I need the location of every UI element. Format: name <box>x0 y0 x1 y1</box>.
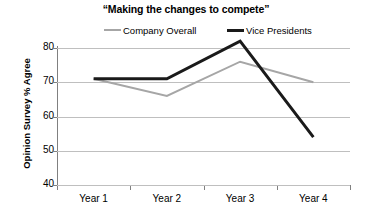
chart-title: “Making the changes to compete” <box>0 3 372 15</box>
x-tick-label: Year 2 <box>130 193 204 204</box>
y-tick-label: 50 <box>30 144 54 155</box>
y-tick-label: 80 <box>30 41 54 52</box>
y-tick-label: 40 <box>30 178 54 189</box>
gridline <box>57 185 350 186</box>
y-tick-label: 70 <box>30 75 54 86</box>
x-tick-label: Year 4 <box>276 193 350 204</box>
x-tick-mark <box>350 185 351 190</box>
legend-item-company-overall: Company Overall <box>104 23 196 37</box>
legend-item-vice-presidents: Vice Presidents <box>227 23 312 37</box>
line-chart: “Making the changes to compete” Company … <box>0 0 372 217</box>
legend-swatch-vice-presidents-icon <box>227 29 244 32</box>
legend-swatch-company-overall-icon <box>104 29 121 31</box>
legend-label-company-overall: Company Overall <box>123 25 196 36</box>
legend-label-vice-presidents: Vice Presidents <box>246 25 312 36</box>
y-tick-label: 60 <box>30 110 54 121</box>
chart-legend: Company Overall Vice Presidents <box>58 23 358 37</box>
x-tick-label: Year 1 <box>57 193 131 204</box>
series-layer <box>57 48 350 185</box>
x-tick-label: Year 3 <box>203 193 277 204</box>
series-line-vice-presidents <box>94 41 314 137</box>
